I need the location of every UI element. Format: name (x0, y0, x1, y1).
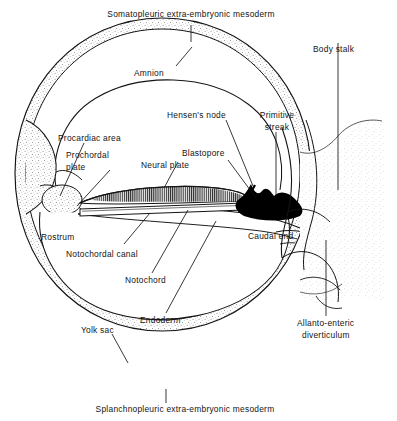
label-splanchnopleuric-mesoderm: Splanchnopleuric extra-embryonic mesoder… (96, 404, 275, 415)
label-endoderm: Endoderm (140, 315, 181, 326)
label-notochord: Notochord (125, 275, 166, 286)
leader-amnion (176, 47, 192, 66)
label-caudal-end: Caudal end (248, 231, 293, 242)
label-blastopore: Blastopore (182, 148, 225, 159)
label-body-stalk: Body stalk (313, 44, 354, 55)
leader-yolk-sac (112, 334, 128, 363)
label-allanto-enteric-line2: diverticulum (302, 330, 350, 341)
label-somatopleuric-mesoderm: Somatopleuric extra-embryonic mesoderm (107, 9, 274, 20)
label-amnion: Amnion (134, 68, 164, 79)
label-rostrum: Rostrum (41, 232, 74, 243)
label-primitive-streak-line1: Primitive (260, 110, 294, 121)
label-prochordal-plate-line1: Prochordal (66, 150, 109, 161)
label-hensens-node: Hensen's node (167, 110, 226, 121)
label-neural-plate: Neural plate (141, 160, 189, 171)
label-primitive-streak-line2: streak (265, 122, 289, 133)
label-procardiac-area: Procardiac area (58, 133, 121, 144)
label-prochordal-plate-line2: plate (66, 162, 85, 173)
label-allanto-enteric-line1: Allanto-enteric (297, 318, 354, 329)
embryo-sagittal-diagram (0, 0, 397, 421)
label-yolk-sac: Yolk sac (81, 325, 114, 336)
label-notochordal-canal: Notochordal canal (66, 249, 138, 260)
